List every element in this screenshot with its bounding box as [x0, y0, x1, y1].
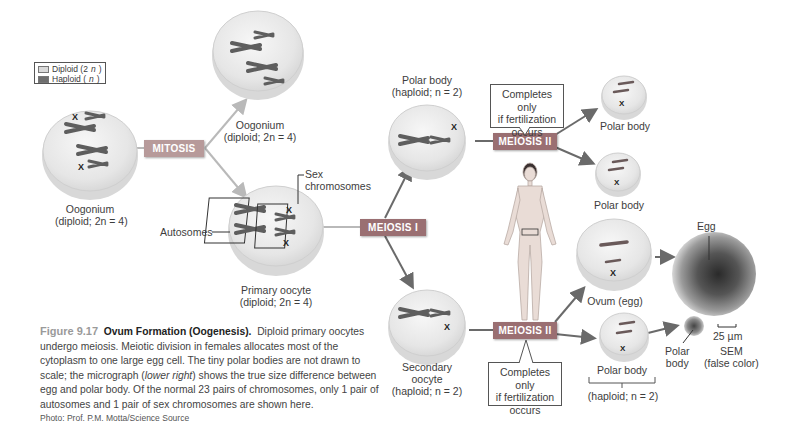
label-sex-chromosomes: Sex chromosomes [305, 168, 371, 192]
svg-text:X: X [614, 178, 620, 187]
label-polar-body-2a: Polar body [595, 120, 655, 132]
svg-text:X: X [444, 322, 450, 332]
legend-item-haploid: Haploid (n) [38, 74, 102, 84]
label-polar-body-1: Polar body (haploid; n = 2) [388, 74, 466, 98]
label-sem: SEM (false color) [704, 345, 759, 369]
label-primary-oocyte: Primary oocyte (diploid; 2n = 4) [236, 284, 316, 308]
label-oogonium-left: Oogonium (diploid; 2n = 4) [55, 203, 125, 227]
cell-polar-body-2b: X [595, 153, 641, 197]
svg-text:X: X [619, 99, 625, 108]
label-polar-body-3: Polar body [592, 364, 652, 376]
cell-polar-body-1: X [388, 105, 466, 180]
svg-text:X: X [620, 344, 626, 353]
cell-polar-body-3: X [589, 313, 655, 388]
label-polar-body-2b: Polar body [589, 199, 649, 211]
label-micro-polar-body: Polar body [665, 345, 690, 369]
svg-text:X: X [451, 122, 457, 132]
micrograph [672, 232, 756, 343]
callout-bottom: Completes only if fertilization occurs [488, 362, 562, 406]
legend-item-diploid: Diploid (2n) [38, 64, 102, 74]
label-scale-bar: 25 µm [713, 330, 742, 342]
cell-oogonium-left: X X [42, 111, 138, 200]
label-ovum: Ovum (egg) [585, 295, 645, 307]
label-autosomes: Autosomes [160, 226, 213, 238]
figure-caption: Figure 9.17 Ovum Formation (Oogenesis). … [40, 324, 380, 413]
svg-text:X: X [72, 112, 78, 122]
haploid-swatch [38, 76, 49, 83]
legend: Diploid (2n) Haploid (n) [34, 62, 106, 84]
callout-top: Completes only if fertilization occurs [490, 84, 564, 128]
label-polar-body-3-ploidy: (haploid; n = 2) [580, 390, 666, 402]
cell-ovum: X [576, 219, 652, 291]
mitosis-label: MITOSIS [144, 140, 204, 157]
label-secondary-oocyte: Secondary oocyte (haploid; n = 2) [388, 361, 466, 397]
human-figure [504, 163, 556, 320]
cell-oogonium-top [212, 11, 304, 100]
label-oogonium-top: Oogonium (diploid; 2n = 4) [220, 119, 300, 143]
figure-number: Figure 9.17 [40, 325, 98, 337]
diploid-swatch [38, 66, 49, 73]
cell-polar-body-2a: X [601, 76, 647, 120]
photo-credit: Photo: Prof. P.M. Motta/Science Source [40, 413, 189, 423]
svg-text:X: X [286, 205, 292, 215]
label-egg: Egg [697, 220, 716, 232]
svg-text:X: X [610, 268, 616, 278]
meiosis-1-label: MEIOSIS I [360, 219, 426, 236]
callout-bottom-pointer [515, 340, 539, 363]
figure-title: Ovum Formation (Oogenesis). [104, 326, 252, 337]
meiosis-2-bottom-label: MEIOSIS II [493, 322, 557, 339]
cell-secondary-oocyte: X [388, 290, 466, 365]
callout-top-pointer [515, 127, 535, 135]
svg-text:X: X [283, 238, 289, 248]
svg-text:X: X [78, 162, 84, 172]
